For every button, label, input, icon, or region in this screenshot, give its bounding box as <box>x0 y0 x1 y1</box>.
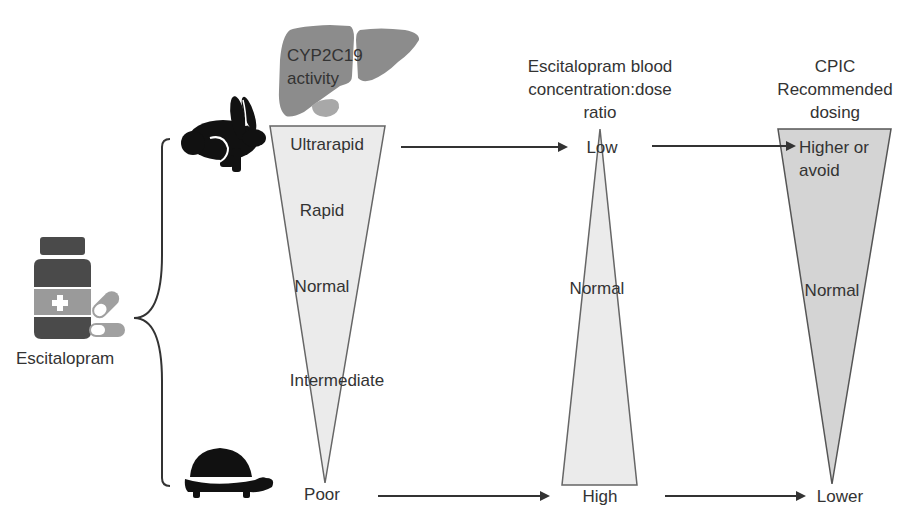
level-lower: Lower <box>817 486 863 507</box>
cpic-header-line-2: Recommended <box>777 78 892 101</box>
level-low: Low <box>586 137 617 158</box>
level-higher-or: Higher or <box>799 137 869 158</box>
cpic-header-line-3: dosing <box>810 101 860 124</box>
rabbit-icon <box>181 95 266 172</box>
cyp2c19-header-line-1: CYP2C19 <box>287 45 363 66</box>
level-poor: Poor <box>304 484 340 505</box>
level-intermediate: Intermediate <box>290 370 385 391</box>
cpic-dosing-triangle <box>778 129 891 484</box>
level-normal-dosing: Normal <box>805 280 860 301</box>
turtle-icon <box>185 448 273 498</box>
level-normal-ratio: Normal <box>570 278 625 299</box>
medicine-bottle-icon <box>34 237 91 339</box>
drug-label: Escitalopram <box>16 348 114 369</box>
grouping-brace <box>134 139 170 486</box>
cyp2c19-activity-triangle <box>270 126 385 483</box>
blood-ratio-header-line-1: Escitalopram blood <box>528 55 673 78</box>
level-high: High <box>583 486 618 507</box>
blood-ratio-header-line-2: concentration:dose <box>528 78 672 101</box>
level-avoid: avoid <box>799 160 840 181</box>
pharmacogenomics-diagram: CYP2C19 activity Escitalopram blood conc… <box>0 0 921 515</box>
level-rapid: Rapid <box>300 200 344 221</box>
cpic-header-line-1: CPIC <box>815 55 856 78</box>
pills-icon <box>89 288 125 337</box>
blood-ratio-header-line-3: ratio <box>583 101 616 124</box>
level-ultrarapid: Ultrarapid <box>290 134 364 155</box>
level-normal-activity: Normal <box>295 276 350 297</box>
cyp2c19-header-line-2: activity <box>287 68 339 89</box>
blood-ratio-triangle <box>562 129 637 485</box>
